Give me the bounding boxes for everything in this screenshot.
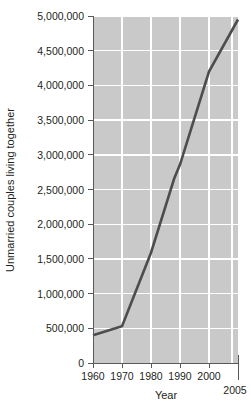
x-tick-label-end: 2005 <box>223 384 247 396</box>
x-tick-label: 1980 <box>139 370 163 382</box>
y-axis-tick-labels: 5,000,000 4,500,000 4,000,000 3,500,000 … <box>37 10 84 369</box>
x-axis-ticks <box>93 363 209 368</box>
x-tick-label: 2000 <box>197 370 221 382</box>
y-tick-label: 500,000 <box>46 322 84 334</box>
y-tick-label: 3,500,000 <box>37 114 84 126</box>
y-tick-label: 5,000,000 <box>37 10 84 22</box>
y-tick-label: 3,000,000 <box>37 149 84 161</box>
x-axis-title: Year <box>155 389 178 401</box>
y-axis-ticks <box>88 16 93 363</box>
y-tick-label: 1,000,000 <box>37 288 84 300</box>
x-tick-label: 1960 <box>81 370 105 382</box>
chart-figure: 5,000,000 4,500,000 4,000,000 3,500,000 … <box>0 0 251 411</box>
y-tick-label: 2,000,000 <box>37 218 84 230</box>
y-tick-label: 2,500,000 <box>37 184 84 196</box>
x-tick-label: 1970 <box>110 370 134 382</box>
line-chart: 5,000,000 4,500,000 4,000,000 3,500,000 … <box>0 0 251 411</box>
y-tick-label: 1,500,000 <box>37 253 84 265</box>
x-tick-label: 1990 <box>168 370 192 382</box>
y-axis-title: Unmarried couples living together <box>4 108 16 272</box>
y-tick-label: 4,500,000 <box>37 45 84 57</box>
y-tick-label: 0 <box>78 357 84 369</box>
y-tick-label: 4,000,000 <box>37 79 84 91</box>
